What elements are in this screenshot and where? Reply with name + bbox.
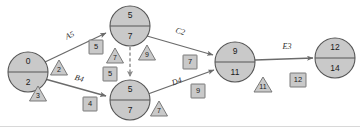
square-label-6-text: 12 [294,75,302,84]
square-label-3[interactable]: 4 [83,97,97,111]
triangle-label-1[interactable]: 2 [51,60,68,75]
triangle-label-4-text: 9 [145,51,149,58]
node-n1[interactable]: 0 2 [8,52,48,92]
triangle-label-2-text: 3 [36,92,40,99]
edge-c-label: C2 [174,26,185,37]
edges-layer: A5 B4 C2 D4 E3 [45,26,313,96]
node-n2[interactable]: 5 7 [110,6,150,46]
square-label-6[interactable]: 12 [290,73,306,87]
square-label-4-text: 7 [188,57,192,66]
triangle-label-5-text: 7 [157,107,161,114]
node-n4-latest: 11 [231,67,240,77]
node-n3-latest: 7 [128,105,133,115]
pert-network-diagram: A5 B4 C2 D4 E3 [0,0,360,127]
node-n1-earliest: 0 [26,56,31,66]
square-label-4[interactable]: 7 [183,55,197,69]
triangle-label-3-text: 7 [113,54,117,61]
edge-b[interactable]: B4 [45,73,106,96]
edge-a-label: A5 [63,29,76,41]
square-label-1[interactable]: 5 [89,40,103,54]
edge-e-line [255,58,313,60]
node-n3-earliest: 5 [128,84,133,94]
node-n1-latest: 2 [26,77,31,87]
edge-e[interactable]: E3 [255,42,313,60]
square-label-2-text: 5 [108,69,112,78]
node-n3[interactable]: 5 7 [110,80,150,120]
edge-e-label: E3 [282,42,292,51]
node-n5-latest: 14 [330,63,340,73]
square-label-5[interactable]: 9 [191,84,205,98]
node-n5-earliest: 12 [330,42,340,52]
triangle-label-4[interactable]: 9 [139,45,156,60]
node-n4-earliest: 9 [233,46,238,56]
triangle-label-3[interactable]: 7 [107,48,124,63]
triangle-label-6-text: 11 [259,83,266,90]
node-n4[interactable]: 9 11 [215,42,255,82]
square-label-2[interactable]: 5 [103,67,117,81]
node-n5[interactable]: 12 14 [315,38,355,78]
triangle-label-1-text: 2 [57,66,61,73]
square-label-3-text: 4 [88,99,92,108]
edge-c[interactable]: C2 [147,26,213,55]
edge-b-label: B4 [74,73,85,84]
square-label-1-text: 5 [94,42,98,51]
edge-c-line [147,36,213,55]
triangle-label-5[interactable]: 7 [151,101,168,116]
node-n2-latest: 7 [128,31,133,41]
square-label-5-text: 9 [196,86,200,95]
network-canvas: A5 B4 C2 D4 E3 [0,0,360,127]
triangle-label-6[interactable]: 11 [254,77,272,92]
node-n2-earliest: 5 [128,10,133,20]
